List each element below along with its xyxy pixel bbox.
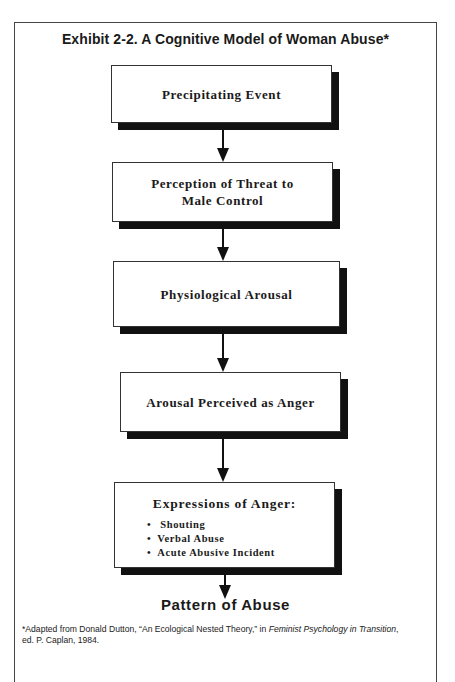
step-label-line2: Male Control [182, 192, 264, 209]
exhibit-title: Exhibit 2-2. A Cognitive Model of Woman … [14, 31, 437, 47]
arrow-down-icon [217, 439, 229, 482]
footnote: *Adapted from Donald Dutton, “An Ecologi… [22, 624, 432, 646]
footnote-prefix: *Adapted from Donald Dutton, “An Ecologi… [22, 624, 269, 634]
step-label: Arousal Perceived as Anger [146, 394, 315, 411]
step-expressions-of-anger: Expressions of Anger: Shouting Verbal Ab… [114, 482, 335, 568]
footnote-line2: ed. P. Caplan, 1984. [22, 635, 99, 645]
list-item: Shouting [147, 518, 275, 532]
step-label: Precipitating Event [162, 86, 281, 103]
step-label-line1: Perception of Threat to [151, 175, 294, 192]
step-label: Physiological Arousal [161, 286, 293, 303]
step-perception-of-threat: Perception of Threat to Male Control [112, 162, 333, 222]
footnote-book-title: Feminist Psychology in Transition [269, 624, 396, 634]
arrow-down-icon [217, 130, 229, 162]
step-physiological-arousal: Physiological Arousal [113, 261, 340, 327]
arrow-down-icon [217, 334, 229, 372]
anger-expressions-list: Shouting Verbal Abuse Acute Abusive Inci… [147, 518, 275, 560]
footnote-suffix: , [396, 624, 398, 634]
step-arousal-perceived-as-anger: Arousal Perceived as Anger [120, 372, 341, 432]
list-item: Verbal Abuse [147, 532, 275, 546]
step-precipitating-event: Precipitating Event [111, 65, 332, 123]
list-item: Acute Abusive Incident [147, 546, 275, 560]
step-heading: Expressions of Anger: [153, 495, 296, 512]
arrow-down-icon [217, 229, 229, 261]
outcome-label: Pattern of Abuse [14, 596, 437, 613]
